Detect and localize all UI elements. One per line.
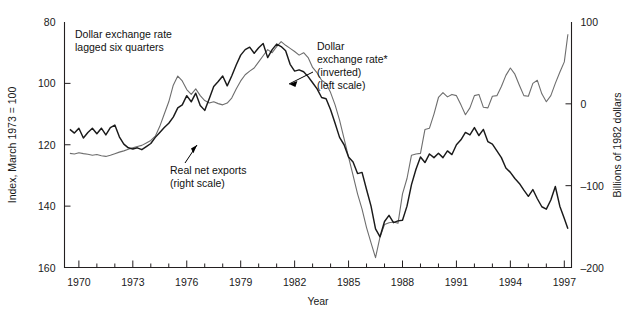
tick-label-bottom: 1982	[283, 276, 307, 288]
tick-label-left: 80	[44, 16, 56, 28]
tick-label-right: –200	[581, 262, 605, 274]
exchange-rate-annotation-line-2: exchange rate*	[317, 53, 388, 65]
tick-label-bottom: 1994	[499, 276, 523, 288]
tick-label-bottom: 1985	[337, 276, 361, 288]
tick-label-left: 100	[38, 77, 56, 89]
tick-label-bottom: 1988	[391, 276, 415, 288]
exchange-rate-annotation-line-3: (inverted)	[317, 66, 361, 78]
right-axis-title: Billions of 1982 dollars	[611, 92, 623, 197]
left-axis-title: Index, March 1973 = 100	[6, 87, 18, 204]
tick-label-bottom: 1976	[175, 276, 199, 288]
chart-figure: 80100120140160 1000–100–200 197019731976…	[0, 0, 635, 327]
bottom-axis-title: Year	[307, 295, 329, 307]
caption-line-1: Dollar exchange rate	[75, 28, 172, 40]
exchange-rate-annotation-line-4: (left scale)	[317, 79, 365, 91]
net-exports-annotation-line-1: Real net exports	[170, 164, 246, 176]
tick-label-bottom: 1991	[445, 276, 469, 288]
exchange-rate-annotation-line-1: Dollar	[317, 40, 345, 52]
tick-label-right: –100	[581, 180, 605, 192]
chart-svg: 80100120140160 1000–100–200 197019731976…	[0, 0, 635, 327]
tick-label-left: 160	[38, 262, 56, 274]
tick-label-bottom: 1979	[229, 276, 253, 288]
chart-caption: Dollar exchange rate lagged six quarters	[75, 28, 172, 53]
tick-label-bottom: 1997	[553, 276, 577, 288]
tick-label-left: 140	[38, 200, 56, 212]
tick-label-bottom: 1970	[67, 276, 91, 288]
tick-label-left: 120	[38, 139, 56, 151]
tick-label-right: 100	[581, 16, 599, 28]
tick-label-bottom: 1973	[121, 276, 145, 288]
net-exports-annotation-line-2: (right scale)	[170, 177, 225, 189]
tick-label-right: 0	[581, 98, 587, 110]
caption-line-2: lagged six quarters	[75, 41, 164, 53]
